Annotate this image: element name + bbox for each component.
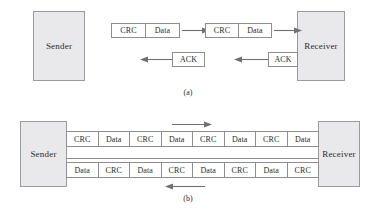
chain-cell: Data: [99, 132, 131, 146]
chain-cell: CRC: [99, 163, 131, 177]
frame-cell: Data: [239, 24, 271, 37]
chain-cell: CRC: [67, 132, 99, 146]
panel-a-ack-frame-1: ACK: [172, 52, 205, 67]
chain-cell: CRC: [130, 132, 162, 146]
panel-b-sender-node: Sender: [20, 121, 67, 187]
chain-cell: Data: [130, 163, 162, 177]
chain-cell: Data: [67, 163, 99, 177]
panel-a-sender-label: Sender: [46, 41, 72, 51]
frame-cell: ACK: [269, 53, 297, 66]
panel-b-middle-rail: [66, 158, 319, 159]
frame-cell: CRC: [112, 24, 146, 37]
chain-cell: Data: [225, 132, 257, 146]
panel-b-receiver-node: Receiver: [318, 121, 360, 187]
chain-cell: Data: [193, 163, 225, 177]
panel-a-receiver-node: Receiver: [297, 11, 345, 81]
panel-b-bottom-arrow: [165, 183, 205, 190]
panel-b-top-chain: CRC Data CRC Data CRC Data CRC Data: [66, 131, 319, 147]
panel-b-bottom-chain: Data CRC Data CRC Data CRC Data CRC: [66, 162, 319, 178]
panel-a-forward-arrow-2: [274, 27, 302, 34]
panel-b-sender-label: Sender: [30, 149, 56, 159]
figure-root: Sender Receiver CRC Data CRC Data: [0, 0, 374, 215]
chain-cell: Data: [256, 163, 288, 177]
frame-cell: CRC: [206, 24, 239, 37]
panel-b-receiver-label: Receiver: [322, 149, 356, 159]
panel-a-ack-arrow-2: [234, 56, 268, 63]
chain-cell: CRC: [288, 163, 319, 177]
panel-b-caption: (b): [168, 194, 208, 203]
chain-cell: CRC: [193, 132, 225, 146]
panel-a-caption: (a): [168, 88, 208, 97]
panel-a-sender-node: Sender: [33, 11, 85, 81]
chain-cell: Data: [162, 132, 194, 146]
panel-a-forward-frame-2: CRC Data: [205, 23, 272, 38]
panel-a-ack-arrow-1: [140, 56, 172, 63]
chain-cell: Data: [288, 132, 319, 146]
panel-a-receiver-label: Receiver: [304, 41, 338, 51]
panel-a-ack-frame-2: ACK: [268, 52, 298, 67]
chain-cell: CRC: [225, 163, 257, 177]
panel-a-forward-frame-1: CRC Data: [111, 23, 180, 38]
frame-cell: Data: [146, 24, 179, 37]
chain-cell: CRC: [256, 132, 288, 146]
panel-b-top-arrow: [172, 121, 212, 128]
chain-cell: CRC: [162, 163, 194, 177]
frame-cell: ACK: [173, 53, 204, 66]
